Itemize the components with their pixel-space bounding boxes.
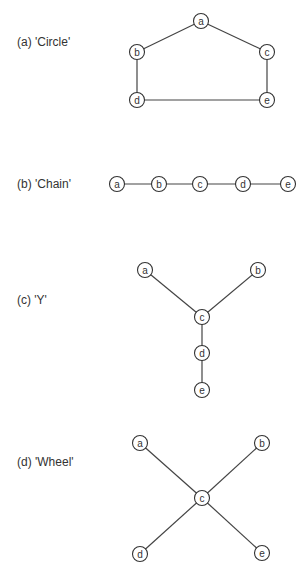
svg-text:b: b <box>134 47 140 58</box>
node-c: c <box>195 310 210 325</box>
node-a: a <box>194 14 209 29</box>
svg-text:c: c <box>200 312 205 323</box>
node-c: c <box>193 177 208 192</box>
svg-text:e: e <box>285 179 291 190</box>
node-e: e <box>195 383 210 398</box>
edge-c-e <box>202 498 262 553</box>
svg-text:a: a <box>137 438 143 449</box>
svg-text:d: d <box>240 179 246 190</box>
graph-circle: abcde <box>130 14 275 108</box>
node-e: e <box>260 93 275 108</box>
graph-chain: abcde <box>110 177 296 192</box>
svg-text:b: b <box>259 438 265 449</box>
svg-text:c: c <box>265 47 270 58</box>
edge-a-c <box>145 270 202 317</box>
edge-a-c <box>201 21 267 52</box>
svg-text:d: d <box>199 348 205 359</box>
node-a: a <box>110 177 125 192</box>
graph-y: abcde <box>138 263 266 398</box>
svg-text:d: d <box>134 95 140 106</box>
svg-text:b: b <box>156 179 162 190</box>
node-d: d <box>236 177 251 192</box>
edge-a-b <box>137 21 201 52</box>
node-c: c <box>260 45 275 60</box>
node-d: d <box>195 346 210 361</box>
svg-text:a: a <box>114 179 120 190</box>
svg-text:a: a <box>142 265 148 276</box>
network-graphs-canvas: abcdeabcdeabcdeabcde <box>0 0 306 569</box>
svg-text:a: a <box>198 16 204 27</box>
node-d: d <box>130 93 145 108</box>
svg-text:e: e <box>259 548 265 559</box>
node-b: b <box>152 177 167 192</box>
svg-text:e: e <box>264 95 270 106</box>
graph-wheel: abcde <box>133 436 270 562</box>
node-a: a <box>133 436 148 451</box>
node-b: b <box>130 45 145 60</box>
node-a: a <box>138 263 153 278</box>
svg-text:c: c <box>200 493 205 504</box>
node-d: d <box>133 547 148 562</box>
edge-b-c <box>202 443 262 498</box>
node-b: b <box>255 436 270 451</box>
svg-text:b: b <box>255 265 261 276</box>
edge-c-d <box>140 498 202 554</box>
node-e: e <box>255 546 270 561</box>
node-b: b <box>251 263 266 278</box>
node-e: e <box>281 177 296 192</box>
node-c: c <box>195 491 210 506</box>
svg-text:c: c <box>198 179 203 190</box>
svg-text:e: e <box>199 385 205 396</box>
svg-text:d: d <box>137 549 143 560</box>
edge-a-c <box>140 443 202 498</box>
edge-b-c <box>202 270 258 317</box>
